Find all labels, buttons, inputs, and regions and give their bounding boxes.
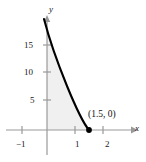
shaded-region: [47, 25, 89, 130]
plot-canvas: [0, 0, 146, 162]
x-axis-label: x: [135, 124, 139, 133]
y-tick-label-15: 15: [24, 41, 33, 50]
x-intercept-point: [86, 127, 92, 133]
y-tick-label-5: 5: [30, 96, 35, 105]
x-intercept-label: (1.5, 0): [88, 110, 116, 120]
y-tick-label-10: 10: [24, 68, 33, 77]
y-axis-label: y: [49, 5, 53, 14]
x-tick-label-2: 2: [105, 140, 110, 149]
x-tick-label-neg1: −1: [16, 140, 26, 149]
x-tick-label-1: 1: [75, 140, 80, 149]
math-figure: 15 10 5 −1 1 2 y x (1.5, 0): [0, 0, 146, 162]
